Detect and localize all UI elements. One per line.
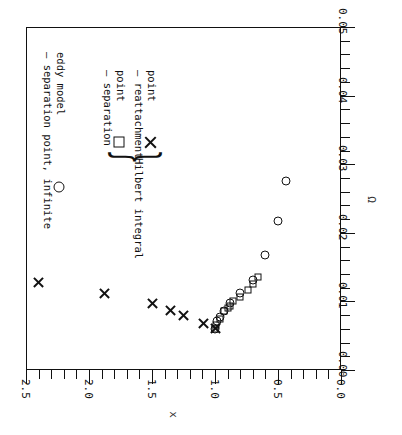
data-point-circle	[274, 216, 283, 225]
data-point-x	[33, 277, 44, 288]
x-tick-label: 0.0	[334, 379, 347, 399]
omega-minor-tick	[341, 247, 350, 248]
x-minor-tick	[190, 370, 191, 379]
legend-circle-label-line2: eddy model	[54, 52, 67, 115]
omega-tick-label: 0.01	[336, 282, 349, 309]
legend-square-marker-icon	[114, 137, 125, 148]
omega-minor-tick	[341, 68, 350, 69]
omega-minor-tick	[341, 329, 350, 330]
legend-square-label-line2: point	[114, 70, 127, 102]
omega-tick-label: 0.05	[336, 8, 349, 35]
omega-minor-tick	[341, 54, 350, 55]
x-minor-tick	[165, 370, 166, 379]
omega-minor-tick	[341, 178, 350, 179]
data-point-x	[147, 298, 158, 309]
x-minor-tick	[114, 370, 115, 379]
omega-minor-tick	[341, 274, 350, 275]
omega-minor-tick	[341, 41, 350, 42]
chart-canvas: 0.000.010.020.030.040.05 2.52.01.51.00.5…	[0, 0, 402, 435]
omega-tick-label: 0.04	[336, 77, 349, 104]
omega-minor-tick	[341, 192, 350, 193]
x-axis-title: x	[167, 411, 180, 418]
x-minor-tick	[253, 370, 254, 379]
omega-tick-label: 0.03	[336, 145, 349, 172]
omega-tick-label: 0.02	[336, 214, 349, 241]
x-tick-label: 2.0	[82, 379, 95, 399]
data-point-circle	[281, 176, 290, 185]
x-minor-tick	[240, 370, 241, 379]
data-point-square	[244, 286, 251, 293]
legend-circle-marker-icon	[54, 182, 65, 193]
x-minor-tick	[291, 370, 292, 379]
legend-x-label-line1: – reattachment	[132, 70, 145, 159]
data-point-square	[254, 274, 261, 281]
data-point-circle	[261, 250, 270, 259]
data-point-square	[237, 293, 244, 300]
x-tick-label: 1.0	[208, 379, 221, 399]
data-point-x	[210, 323, 221, 334]
omega-minor-tick	[341, 343, 350, 344]
x-minor-tick	[139, 370, 140, 379]
omega-minor-tick	[341, 137, 350, 138]
x-minor-tick	[102, 370, 103, 379]
omega-tick-label: 0.00	[336, 351, 349, 378]
omega-minor-tick	[341, 123, 350, 124]
x-minor-tick	[177, 370, 178, 379]
x-minor-tick	[202, 370, 203, 379]
x-minor-tick	[228, 370, 229, 379]
legend-circle-label-line1: – separation point, infinite	[41, 52, 54, 229]
omega-minor-tick	[341, 109, 350, 110]
x-minor-tick	[64, 370, 65, 379]
legend-x-marker-icon	[144, 136, 157, 149]
legend-x-label-line2: point	[145, 70, 158, 102]
x-tick-label: 1.5	[145, 379, 158, 399]
data-point-x	[165, 305, 176, 316]
x-minor-tick	[127, 370, 128, 379]
x-minor-tick	[303, 370, 304, 379]
omega-minor-tick	[341, 315, 350, 316]
omega-minor-tick	[341, 205, 350, 206]
x-minor-tick	[265, 370, 266, 379]
legend-brace-label: Hilbert integral	[132, 158, 145, 259]
data-point-square	[249, 280, 256, 287]
omega-minor-tick	[341, 260, 350, 261]
data-point-x	[198, 318, 209, 329]
x-minor-tick	[328, 370, 329, 379]
x-minor-tick	[76, 370, 77, 379]
x-minor-tick	[39, 370, 40, 379]
x-minor-tick	[316, 370, 317, 379]
legend-square-label-line1: – separation	[101, 70, 114, 146]
x-minor-tick	[51, 370, 52, 379]
x-tick-label: 2.5	[19, 379, 32, 399]
data-point-square	[217, 315, 224, 322]
data-point-x	[99, 288, 110, 299]
omega-axis-title: Ω	[365, 196, 378, 203]
data-point-square	[229, 298, 236, 305]
data-point-x	[178, 310, 189, 321]
x-tick-label: 0.5	[271, 379, 284, 399]
